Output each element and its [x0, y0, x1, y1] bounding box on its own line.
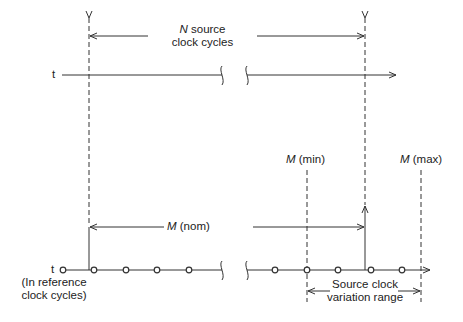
bottom-t-label: t	[51, 263, 54, 276]
n-source-label: N source clock cycles	[150, 23, 255, 49]
m-nom-label: M (nom)	[167, 220, 210, 233]
variation-range-label: Source clock variation range	[320, 278, 410, 304]
reference-clock-label: (In reference clock cycles)	[18, 276, 90, 302]
timing-diagram: t N source clock cycles M (min) M (max) …	[0, 0, 463, 322]
m-min-label: M (min)	[286, 153, 325, 166]
m-max-label: M (max)	[400, 153, 442, 166]
top-t-label: t	[52, 68, 55, 81]
